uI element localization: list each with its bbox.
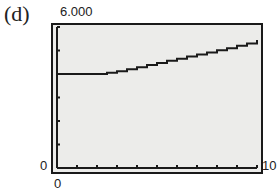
chart-plot — [0, 0, 279, 189]
plot-frame — [52, 24, 262, 173]
